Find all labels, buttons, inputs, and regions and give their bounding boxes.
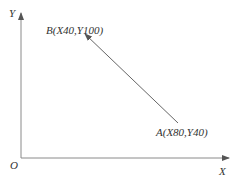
diagram-canvas [0, 0, 240, 186]
origin-label: O [10, 159, 18, 171]
point-b-label: B(X40,Y100) [46, 24, 103, 36]
x-axis-label: X [219, 165, 226, 177]
point-a-label: A(X80,Y40) [156, 126, 208, 138]
y-axis-label: Y [9, 7, 15, 19]
coordinate-diagram: Y X O B(X40,Y100) A(X80,Y40) [0, 0, 240, 186]
vector-arrow [85, 34, 178, 123]
